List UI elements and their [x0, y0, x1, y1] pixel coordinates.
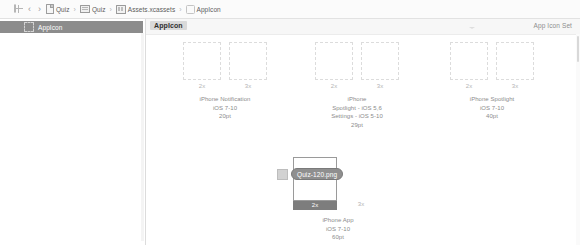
icon-slot-60pt-3x[interactable]: 3x	[338, 157, 384, 210]
image-well[interactable]	[315, 42, 353, 80]
grid-icon[interactable]	[14, 5, 23, 14]
drag-filename-label: Quiz-120.png	[291, 168, 343, 180]
image-well[interactable]	[183, 42, 221, 80]
folder-icon	[80, 5, 90, 13]
icon-slot-20pt-2x[interactable]: 2x	[179, 42, 225, 89]
document-icon	[46, 4, 54, 14]
editor-scrollbar[interactable]	[576, 34, 580, 245]
icon-slot-canvas: 2x 3x iPhone Notification iOS 7-10 20pt	[146, 34, 580, 245]
content-split: AppIcon AppIcon App Icon Set 2x	[0, 19, 580, 245]
image-thumbnail-icon	[277, 169, 288, 180]
editor-header	[146, 19, 580, 35]
icon-slot-20pt-3x[interactable]: 3x	[225, 42, 271, 89]
image-set-icon	[186, 5, 195, 14]
sidebar-item-appicon[interactable]: AppIcon	[0, 21, 143, 33]
slot-row: 2x 3x	[179, 42, 271, 89]
image-well[interactable]	[229, 42, 267, 80]
sidebar-scrollbar[interactable]	[141, 33, 144, 241]
slot-row: 2x 3x	[292, 157, 384, 210]
icon-group-iphone-spotlight: 2x 3x iPhone Spotlight iOS 7-10 40pt	[446, 42, 538, 121]
icon-slot-40pt-2x[interactable]: 2x	[446, 42, 492, 89]
image-well[interactable]	[342, 160, 380, 198]
icon-slot-29pt-3x[interactable]: 3x	[357, 42, 403, 89]
slot-row: 2x 3x	[446, 42, 538, 89]
image-well[interactable]	[361, 42, 399, 80]
forward-button[interactable]: ›	[36, 5, 43, 14]
breadcrumb-item-assets[interactable]: Assets.xcassets	[116, 5, 175, 14]
icon-group-iphone-spotlight-settings: 2x 3x iPhone Spotlight - iOS 5,6 Setting…	[311, 42, 403, 129]
icon-slot-60pt-2x[interactable]: 2x	[292, 157, 338, 210]
image-well[interactable]	[496, 42, 534, 80]
editor-scrollbar-thumb[interactable]	[577, 36, 579, 62]
appicon-set-icon	[24, 22, 34, 32]
drag-ghost[interactable]: Quiz-120.png	[277, 168, 343, 180]
editor-kind-label: App Icon Set	[534, 22, 572, 29]
breadcrumb-item-appicon[interactable]: AppIcon	[186, 5, 221, 14]
asset-catalog-icon	[116, 5, 126, 14]
group-caption: iPhone Notification iOS 7-10 20pt	[179, 95, 271, 121]
breadcrumb: ‹ › Quiz › Quiz › Assets.xcassets › AppI…	[0, 0, 580, 19]
editor-title: AppIcon	[150, 21, 187, 30]
breadcrumb-item-project[interactable]: Quiz	[46, 4, 70, 14]
breadcrumb-item-group[interactable]: Quiz	[80, 5, 106, 13]
appicon-editor: AppIcon App Icon Set 2x 3x	[146, 19, 580, 245]
group-caption: iPhone App iOS 7-10 60pt	[292, 216, 384, 242]
group-caption: iPhone Spotlight - iOS 5,6 Settings - iO…	[311, 95, 403, 129]
breadcrumb-separator: ›	[178, 6, 182, 13]
image-well[interactable]	[450, 42, 488, 80]
icon-group-iphone-notification: 2x 3x iPhone Notification iOS 7-10 20pt	[179, 42, 271, 121]
group-caption: iPhone Spotlight iOS 7-10 40pt	[446, 95, 538, 121]
breadcrumb-separator: ›	[73, 6, 77, 13]
slot-row: 2x 3x	[311, 42, 403, 89]
asset-list-sidebar: AppIcon	[0, 19, 146, 245]
icon-slot-40pt-3x[interactable]: 3x	[492, 42, 538, 89]
breadcrumb-separator: ›	[109, 6, 113, 13]
back-button[interactable]: ‹	[26, 5, 33, 14]
xcode-asset-catalog-window: ‹ › Quiz › Quiz › Assets.xcassets › AppI…	[0, 0, 580, 245]
chevron-down-icon	[469, 27, 475, 29]
icon-slot-29pt-2x[interactable]: 2x	[311, 42, 357, 89]
